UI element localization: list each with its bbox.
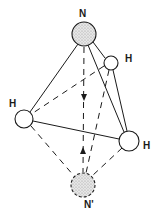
ammonia-inversion-diagram: N H H H N' [0, 0, 160, 214]
dashed-h-upper-h-left [33, 66, 104, 113]
arrow-down-icon [81, 94, 87, 101]
dashed-h-right-n-prime [92, 148, 122, 176]
bond-h-left-h-right [33, 121, 119, 139]
bond-n-h-left [30, 44, 78, 112]
label-h-left: H [9, 98, 16, 109]
hydrogen-atom-upper [104, 56, 118, 70]
dashed-h-upper-n-prime [86, 70, 109, 173]
label-h-upper: H [125, 53, 132, 64]
dashed-h-left-n-prime [31, 126, 74, 176]
hydrogen-atom-left [15, 110, 33, 128]
label-n-prime: N' [84, 199, 94, 210]
nitrogen-atom [72, 22, 96, 46]
label-h-right: H [143, 140, 150, 151]
label-n: N [79, 8, 86, 19]
bond-n-h-upper [93, 42, 105, 58]
arrow-up-icon [80, 147, 86, 154]
hydrogen-atom-right [119, 131, 139, 151]
atoms [15, 22, 139, 197]
nitrogen-prime-atom [71, 173, 95, 197]
